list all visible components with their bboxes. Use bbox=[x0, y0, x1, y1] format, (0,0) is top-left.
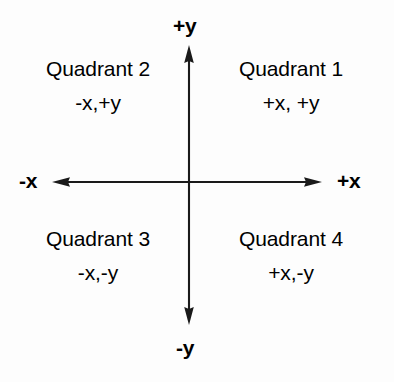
axis-label-positive-x: +x bbox=[337, 169, 360, 193]
positive-x-arrowhead bbox=[304, 177, 322, 187]
quadrant-diagram: +y -y -x +x Quadrant 2 -x,+y Quadrant 1 … bbox=[0, 0, 394, 382]
quadrant-4-coords: +x,-y bbox=[203, 262, 379, 283]
quadrant-1-title: Quadrant 1 bbox=[203, 58, 379, 79]
quadrant-2-block: Quadrant 2 -x,+y bbox=[14, 58, 182, 113]
negative-y-arrowhead bbox=[184, 307, 194, 325]
quadrant-1-coords: +x, +y bbox=[203, 92, 379, 113]
axis-label-negative-x: -x bbox=[19, 169, 37, 193]
quadrant-3-coords: -x,-y bbox=[14, 262, 182, 283]
negative-x-arrowhead bbox=[52, 177, 70, 187]
quadrant-3-block: Quadrant 3 -x,-y bbox=[14, 228, 182, 283]
quadrant-4-block: Quadrant 4 +x,-y bbox=[203, 228, 379, 283]
quadrant-2-title: Quadrant 2 bbox=[14, 58, 182, 79]
quadrant-2-coords: -x,+y bbox=[14, 92, 182, 113]
quadrant-1-block: Quadrant 1 +x, +y bbox=[203, 58, 379, 113]
quadrant-3-title: Quadrant 3 bbox=[14, 228, 182, 249]
positive-y-arrowhead bbox=[184, 45, 194, 63]
axis-label-negative-y: -y bbox=[176, 336, 194, 360]
quadrant-4-title: Quadrant 4 bbox=[203, 228, 379, 249]
axis-label-positive-y: +y bbox=[173, 14, 196, 38]
